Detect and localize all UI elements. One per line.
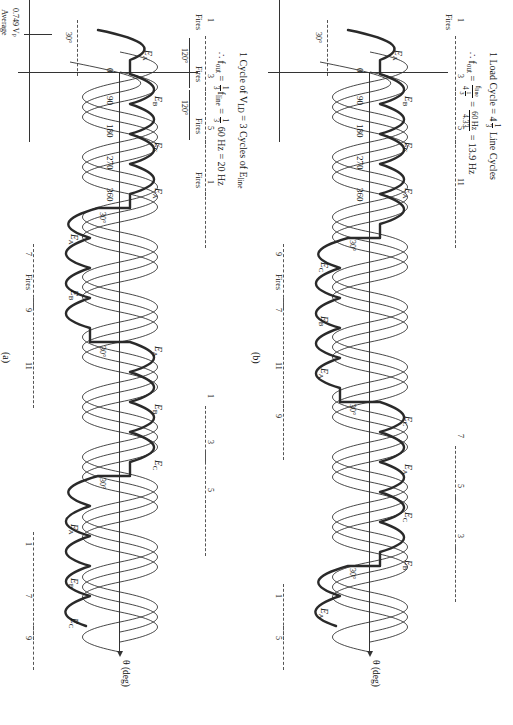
x-tick-label-0-a: 0 xyxy=(105,68,115,73)
fire-tick-b-10: 5 xyxy=(456,484,464,488)
panel-b-body: 1 Load Cycle = 413 Line Cycles ∴ fout = … xyxy=(248,12,498,712)
angle-30-label-b2: 30° xyxy=(348,240,356,251)
x-tick-label-90-b: 90 xyxy=(355,96,365,105)
angle-120-label-a2: 120° xyxy=(180,100,188,115)
fire-tick-a-8: 1 xyxy=(206,394,214,398)
phase-label-a-12: EC xyxy=(68,618,78,628)
angle-120-label-a1: 120° xyxy=(180,48,188,63)
phase-label-b-8: EC xyxy=(402,416,412,426)
fires-label-a-5: Fires xyxy=(24,274,32,290)
panel-a-id: (a) xyxy=(1,352,12,363)
x-tick-label-90-a: 90 xyxy=(105,96,115,105)
phase-label-b-7: EA xyxy=(318,368,328,379)
phase-label-a-7: EA xyxy=(152,346,162,357)
fire-leader-a-7 xyxy=(33,352,34,408)
x-tick-label-0-b: 0 xyxy=(355,68,365,73)
angle-30-label-a3: 30° xyxy=(98,346,106,357)
x-tick-label-360-a: 360 xyxy=(105,188,115,202)
x-tick-label-180-b: 180 xyxy=(355,124,365,138)
fire-leader-b-9 xyxy=(455,446,456,502)
fire-tick-a-10: 5 xyxy=(206,488,214,492)
fire-tick-b-7: 11 xyxy=(274,362,282,370)
fire-tick-b-8: 9 xyxy=(274,414,282,418)
fire-leader-a-4 xyxy=(205,192,206,248)
fire-leader-b-11 xyxy=(455,546,456,602)
fires-label-a-3: Fires xyxy=(194,118,202,134)
phase-label-a-5: EA xyxy=(68,234,78,245)
phase-label-b-12: EA xyxy=(318,608,328,619)
fires-label-a-2: Fires xyxy=(194,66,202,82)
fire-leader-a-3 xyxy=(205,140,206,196)
phase-label-b-5: EC xyxy=(318,262,328,272)
fire-tick-b-6: 7 xyxy=(274,308,282,312)
dim-120-span-a2 xyxy=(189,90,190,140)
fire-tick-a-1: 1 xyxy=(206,18,214,22)
phase-label-a-10: EA xyxy=(68,524,78,535)
waveform-svg-a xyxy=(0,12,248,712)
fire-tick-a-13: 9 xyxy=(24,636,32,640)
angle-30-label-b3: 30° xyxy=(348,404,356,415)
fire-tick-a-5: 7 xyxy=(24,252,32,256)
fire-leader-b-7 xyxy=(283,352,284,408)
fire-tick-b-1: 1 xyxy=(456,18,464,22)
phase-label-b-1: EA xyxy=(392,50,402,61)
angle-30-label-b4: 30° xyxy=(348,568,356,579)
fire-leader-b-4 xyxy=(455,192,456,248)
fire-leader-a-13 xyxy=(33,626,34,670)
fires-label-b-2: Fires xyxy=(274,274,282,290)
phase-label-b-2: EB xyxy=(402,96,412,106)
fire-leader-b-3 xyxy=(455,140,456,196)
figure-canvas: 1 Cycle of VLD = 3 Cycles of Eline ∴ fou… xyxy=(0,0,513,725)
fire-tick-a-4: 1 xyxy=(206,180,214,184)
fire-leader-b-6 xyxy=(283,298,284,354)
phase-label-a-2: EB xyxy=(152,96,162,106)
fire-tick-b-5: 9 xyxy=(274,252,282,256)
fire-leader-a-11 xyxy=(33,532,34,592)
phase-label-a-11: EB xyxy=(68,578,78,588)
fire-tick-a-2: 3 xyxy=(206,74,214,78)
phase-label-a-6: EB xyxy=(68,290,78,300)
fire-tick-b-12: 1 xyxy=(274,594,282,598)
fire-tick-a-6: 9 xyxy=(24,308,32,312)
fire-leader-b-13 xyxy=(283,626,284,670)
panel-a-body: 1 Cycle of VLD = 3 Cycles of Eline ∴ fou… xyxy=(0,12,248,712)
phase-label-a-1: EA xyxy=(142,50,152,61)
phase-label-b-10: EC xyxy=(402,512,412,522)
fire-tick-b-13: 5 xyxy=(274,636,282,640)
angle-30-label-a4: 30° xyxy=(98,478,106,489)
waveform-svg-b xyxy=(248,12,498,712)
phase-label-a-4: EA xyxy=(152,188,162,199)
fire-leader-a-6 xyxy=(33,298,34,354)
x-tick-label-180-a: 180 xyxy=(105,124,115,138)
fire-leader-b-8 xyxy=(283,404,284,460)
phase-label-a-8: EB xyxy=(152,404,162,414)
phase-label-b-9: EA xyxy=(402,464,412,475)
fire-tick-b-11: 3 xyxy=(456,534,464,538)
dim-120-span-a1 xyxy=(189,38,190,88)
fires-label-a-4: Fires xyxy=(194,172,202,188)
panel-b-id: (b) xyxy=(251,352,262,364)
phase-label-b-4: EA xyxy=(402,188,412,199)
x-tick-label-270-a: 270 xyxy=(105,156,115,170)
fire-leader-b-2 xyxy=(455,88,456,144)
fire-tick-a-3: 5 xyxy=(206,126,214,130)
fire-tick-b-4: 11 xyxy=(456,178,464,186)
phase-label-a-3: EC xyxy=(152,142,162,152)
phase-label-b-3: EC xyxy=(402,142,412,152)
fire-tick-b-2: 3 xyxy=(456,74,464,78)
fire-tick-a-7: 11 xyxy=(24,362,32,370)
fire-leader-b-10 xyxy=(455,496,456,552)
fire-tick-a-11: 1 xyxy=(24,542,32,546)
fire-tick-a-12: 7 xyxy=(24,594,32,598)
phase-label-a-9: EC xyxy=(152,460,162,470)
x-tick-label-360-b: 360 xyxy=(355,188,365,202)
x-tick-label-270-b: 270 xyxy=(355,156,365,170)
angle-30-label-a2: 30° xyxy=(98,212,106,223)
fire-leader-a-2 xyxy=(205,88,206,144)
phase-label-b-6: EB xyxy=(318,316,328,326)
fires-label-b-1: Fires xyxy=(444,14,452,30)
fire-tick-a-9: 3 xyxy=(206,440,214,444)
fire-leader-a-10 xyxy=(205,500,206,556)
phase-label-b-11: EB xyxy=(402,560,412,570)
fire-tick-b-9: 7 xyxy=(456,434,464,438)
